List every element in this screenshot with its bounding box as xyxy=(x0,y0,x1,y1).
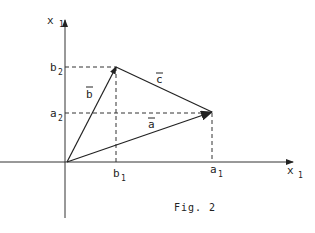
svg-text:2: 2 xyxy=(58,114,63,123)
vector-diagram: x 1 x 1 b 2 a 2 b 1 a 1 b c a Fig. 2 xyxy=(0,0,315,233)
svg-text:1: 1 xyxy=(218,170,223,179)
y-axis-label: x 1 xyxy=(47,14,64,29)
vector-a-label: a xyxy=(148,118,155,131)
svg-text:1: 1 xyxy=(59,20,64,29)
svg-text:b: b xyxy=(50,61,57,74)
svg-text:b: b xyxy=(113,167,120,180)
svg-text:a: a xyxy=(210,163,217,176)
svg-text:x: x xyxy=(47,14,54,27)
svg-text:1: 1 xyxy=(121,174,126,183)
svg-text:x: x xyxy=(287,164,294,177)
projection-lines xyxy=(65,67,212,162)
svg-text:1: 1 xyxy=(298,171,303,180)
tick-a1: a 1 xyxy=(210,163,223,179)
vector-c-label: c xyxy=(156,73,163,86)
svg-text:a: a xyxy=(50,107,57,120)
svg-text:a: a xyxy=(148,118,155,131)
figure-caption: Fig. 2 xyxy=(174,202,216,213)
svg-text:2: 2 xyxy=(58,68,63,77)
vector-c xyxy=(116,67,212,112)
tick-b2: b 2 xyxy=(50,61,63,77)
tick-a2: a 2 xyxy=(50,107,63,123)
x-axis-label: x 1 xyxy=(287,164,303,180)
tick-b1: b 1 xyxy=(113,167,126,183)
svg-text:c: c xyxy=(156,73,163,86)
vector-b-label: b xyxy=(86,87,93,101)
svg-text:b: b xyxy=(86,88,93,101)
